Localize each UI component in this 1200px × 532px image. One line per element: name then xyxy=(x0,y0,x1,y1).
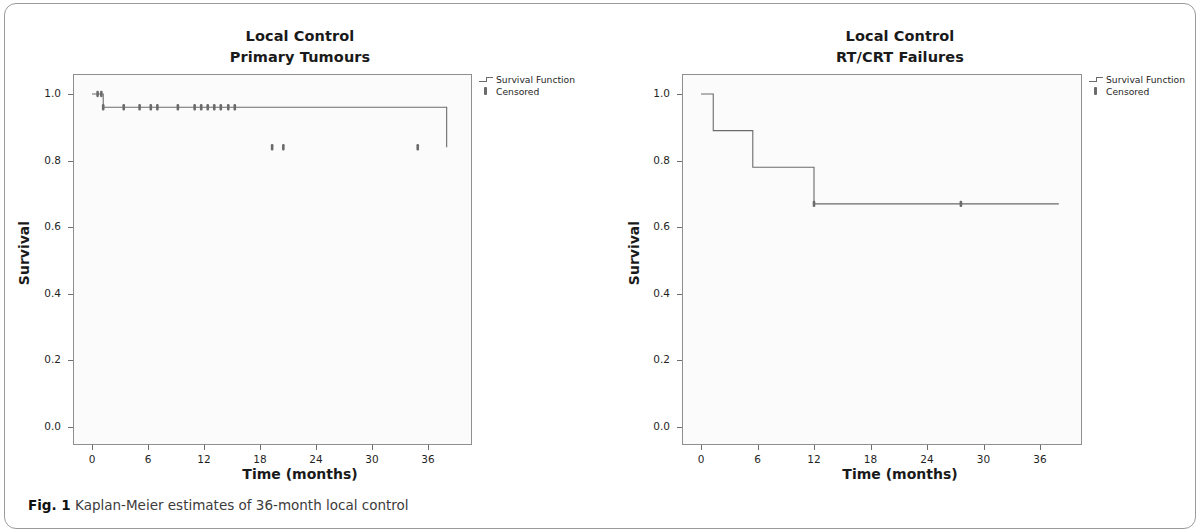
figure-number: Fig. 1 xyxy=(28,497,71,513)
x-tick-mark xyxy=(92,445,93,450)
survival-function-line-icon xyxy=(479,76,493,84)
chart-panel-rt-crt-failures: Local Control RT/CRT Failures 0.00.20.40… xyxy=(600,0,1200,488)
y-tick-label: 1.0 xyxy=(637,87,670,99)
y-tick-label: 0.0 xyxy=(637,420,670,432)
censored-mark xyxy=(177,104,180,110)
survival-step-line xyxy=(92,94,447,147)
y-tick-label: 0.6 xyxy=(28,220,61,232)
x-tick-label: 30 xyxy=(357,453,387,465)
y-tick-mark xyxy=(677,427,682,428)
censored-mark xyxy=(227,104,230,110)
censored-mark xyxy=(96,91,99,97)
censored-mark xyxy=(813,201,816,207)
x-tick-mark xyxy=(148,445,149,450)
y-tick-mark xyxy=(677,161,682,162)
x-tick-label: 36 xyxy=(413,453,443,465)
legend-right: Survival Function Censored xyxy=(1089,74,1185,97)
x-tick-label: 36 xyxy=(1025,453,1055,465)
legend-item-censored: Censored xyxy=(1089,86,1185,98)
censored-mark xyxy=(102,104,105,110)
legend-label-censored: Censored xyxy=(496,86,539,98)
censored-mark xyxy=(156,104,159,110)
x-tick-label: 0 xyxy=(686,453,716,465)
x-tick-label: 18 xyxy=(856,453,886,465)
y-tick-label: 0.4 xyxy=(28,287,61,299)
legend-label-censored: Censored xyxy=(1106,86,1149,98)
censored-mark xyxy=(220,104,223,110)
x-axis-label-right: Time (months) xyxy=(600,466,1200,482)
legend-label-survival-function: Survival Function xyxy=(1106,74,1185,86)
censored-tick-icon xyxy=(1089,87,1103,96)
x-tick-label: 12 xyxy=(189,453,219,465)
legend-label-survival-function: Survival Function xyxy=(496,74,575,86)
legend-item-censored: Censored xyxy=(479,86,575,98)
censored-mark xyxy=(234,104,237,110)
x-tick-mark xyxy=(927,445,928,450)
y-tick-mark xyxy=(68,227,73,228)
censored-mark xyxy=(138,104,141,110)
censored-mark xyxy=(206,104,209,110)
y-tick-mark xyxy=(677,294,682,295)
censored-mark xyxy=(416,144,419,150)
x-tick-label: 18 xyxy=(245,453,275,465)
y-tick-mark xyxy=(677,227,682,228)
x-tick-label: 6 xyxy=(133,453,163,465)
survival-function-line-icon xyxy=(1089,76,1103,84)
x-tick-mark xyxy=(1040,445,1041,450)
x-tick-mark xyxy=(701,445,702,450)
x-tick-label: 0 xyxy=(77,453,107,465)
x-tick-label: 24 xyxy=(912,453,942,465)
x-tick-mark xyxy=(372,445,373,450)
censored-tick-icon xyxy=(479,87,493,96)
x-tick-label: 12 xyxy=(799,453,829,465)
x-tick-mark xyxy=(428,445,429,450)
y-tick-label: 0.8 xyxy=(637,154,670,166)
y-tick-mark xyxy=(68,360,73,361)
x-tick-mark xyxy=(814,445,815,450)
legend-item-survival-function: Survival Function xyxy=(479,74,575,86)
x-tick-mark xyxy=(260,445,261,450)
legend-item-survival-function: Survival Function xyxy=(1089,74,1185,86)
censored-mark xyxy=(200,104,203,110)
x-tick-mark xyxy=(204,445,205,450)
y-tick-mark xyxy=(68,94,73,95)
y-tick-label: 1.0 xyxy=(28,87,61,99)
x-tick-mark xyxy=(984,445,985,450)
y-tick-label: 0.0 xyxy=(28,420,61,432)
censored-mark xyxy=(122,104,125,110)
x-axis-label-left: Time (months) xyxy=(0,466,600,482)
y-tick-mark xyxy=(677,94,682,95)
censored-mark xyxy=(282,144,285,150)
y-tick-mark xyxy=(68,161,73,162)
figure-caption-text: Kaplan-Meier estimates of 36-month local… xyxy=(75,497,409,513)
y-tick-mark xyxy=(677,360,682,361)
x-tick-label: 30 xyxy=(969,453,999,465)
y-tick-label: 0.2 xyxy=(637,353,670,365)
censored-mark xyxy=(271,144,274,150)
censored-mark xyxy=(960,201,963,207)
y-tick-label: 0.4 xyxy=(637,287,670,299)
y-tick-label: 0.8 xyxy=(28,154,61,166)
legend-left: Survival Function Censored xyxy=(479,74,575,97)
censored-mark xyxy=(150,104,153,110)
x-tick-mark xyxy=(316,445,317,450)
x-tick-label: 24 xyxy=(301,453,331,465)
censored-mark xyxy=(193,104,196,110)
y-axis-label-left: Survival xyxy=(16,221,32,285)
x-tick-label: 6 xyxy=(743,453,773,465)
censored-mark xyxy=(100,91,103,97)
x-tick-mark xyxy=(871,445,872,450)
x-tick-mark xyxy=(758,445,759,450)
chart-panel-primary-tumours: Local Control Primary Tumours 0.00.20.40… xyxy=(0,0,600,488)
y-axis-label-right: Survival xyxy=(626,221,642,285)
y-tick-mark xyxy=(68,427,73,428)
censored-mark xyxy=(213,104,216,110)
y-tick-mark xyxy=(68,294,73,295)
figure-panels: Local Control Primary Tumours 0.00.20.40… xyxy=(0,0,1200,488)
survival-step-line xyxy=(701,94,1059,204)
y-tick-label: 0.2 xyxy=(28,353,61,365)
figure-caption: Fig. 1 Kaplan-Meier estimates of 36-mont… xyxy=(28,497,409,513)
